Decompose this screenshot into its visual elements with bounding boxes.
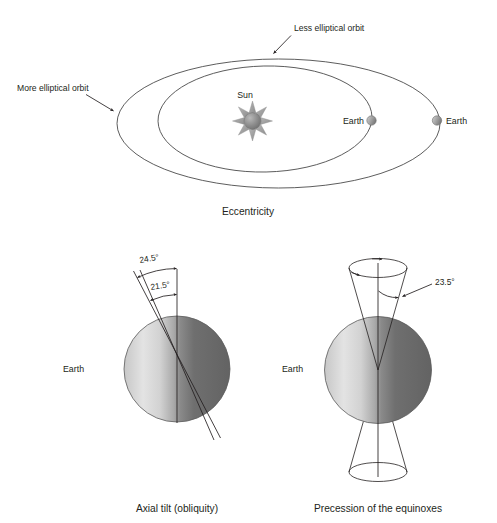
earth-label-inner: Earth	[343, 116, 364, 126]
sun-icon	[233, 101, 273, 141]
angle-arc-21-5	[151, 295, 177, 301]
earth-label-outer: Earth	[446, 116, 467, 126]
more-elliptical-orbit-leader	[86, 95, 114, 112]
panel-eccentricity: Less elliptical orbit More elliptical or…	[17, 23, 467, 217]
less-elliptical-orbit-label: Less elliptical orbit	[294, 23, 365, 33]
angle-arc-24-5	[138, 269, 177, 278]
angle-label-23-5: 23.5°	[435, 277, 455, 287]
precession-direction-arrow-left	[352, 273, 360, 276]
earth-label-axial: Earth	[63, 364, 84, 374]
angle-arc-23-5	[379, 291, 399, 298]
less-elliptical-orbit-leader	[274, 36, 292, 54]
panel-axial-tilt: 24.5° 21.5° Earth Axial tilt (obliquity)	[63, 252, 230, 514]
orbit-less-elliptical	[117, 59, 440, 188]
angle-label-24-5: 24.5°	[139, 252, 160, 265]
milankovitch-figure: Less elliptical orbit More elliptical or…	[0, 0, 497, 523]
earth-marker-inner	[367, 116, 376, 125]
caption-eccentricity: Eccentricity	[222, 206, 275, 217]
earth-marker-outer	[432, 116, 441, 125]
more-elliptical-orbit-label: More elliptical orbit	[17, 83, 89, 93]
angle-leader-23-5	[403, 284, 433, 297]
caption-axial-tilt: Axial tilt (obliquity)	[136, 503, 218, 514]
caption-precession: Precession of the equinoxes	[314, 503, 442, 514]
earth-label-precession: Earth	[282, 364, 303, 374]
angle-label-21-5: 21.5°	[150, 279, 171, 292]
panel-precession: 23.5° Earth Precession of the equinoxes	[282, 259, 455, 515]
sun-label: Sun	[237, 90, 253, 100]
